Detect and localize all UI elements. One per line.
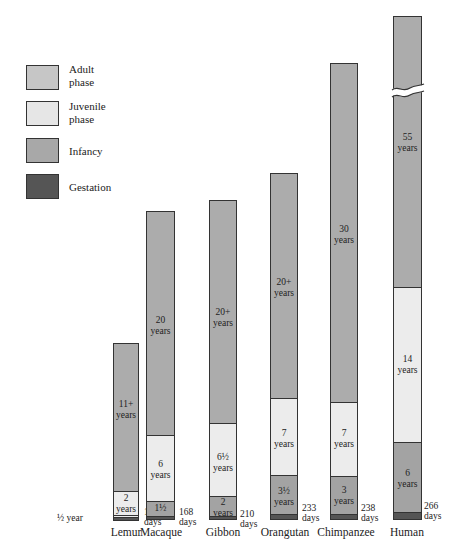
segment-label: 14years xyxy=(394,354,421,376)
segment-label: 3years xyxy=(331,485,357,507)
segment-juvenile: 7years xyxy=(271,398,297,475)
segment-adult: 30years xyxy=(331,64,357,402)
segment-gestation xyxy=(271,514,297,520)
segment-label: 1½ xyxy=(147,503,174,514)
segment-label: 20years xyxy=(147,315,174,337)
orangutan-gestation-label: 233days xyxy=(302,503,319,523)
segment-label: 2years xyxy=(114,493,138,515)
legend-swatch-gestation xyxy=(26,174,59,199)
segment-infancy: 2years xyxy=(210,496,236,516)
segment-label: 7years xyxy=(331,428,357,450)
species-label-chimpanzee: Chimpanzee xyxy=(314,526,378,538)
macaque-gestation-label: 168days xyxy=(179,507,196,527)
segment-label: 6years xyxy=(147,459,174,481)
legend-label-juvenile-line1: Juvenile xyxy=(69,100,106,112)
segment-gestation xyxy=(210,516,236,520)
species-label-gibbon: Gibbon xyxy=(198,526,248,538)
species-label-orangutan: Orangutan xyxy=(254,526,316,538)
legend-swatch-infancy xyxy=(26,138,59,163)
segment-infancy: 3years xyxy=(331,476,357,514)
segment-label: 11+years xyxy=(114,399,138,421)
segment-juvenile: 7years xyxy=(331,402,357,476)
human-gestation-label: 266days xyxy=(424,501,441,521)
segment-label: 20+years xyxy=(210,307,236,329)
segment-adult: 20years xyxy=(147,212,174,435)
segment-infancy: 1½ xyxy=(147,501,174,516)
legend-label-juvenile-line2: phase xyxy=(69,113,94,125)
species-label-macaque: Macaque xyxy=(134,526,188,538)
segment-label: 7years xyxy=(271,428,297,450)
segment-gestation xyxy=(147,516,174,520)
segment-label: 20+years xyxy=(271,277,297,299)
segment-label: 30years xyxy=(331,224,357,246)
axis-break-icon xyxy=(388,80,428,100)
segment-juvenile: 6½years xyxy=(210,423,236,496)
segment-adult: 11+years xyxy=(114,344,138,491)
segment-juvenile: 14years xyxy=(394,287,421,442)
legend-swatch-adult xyxy=(26,65,59,90)
segment-label: 3½years xyxy=(271,486,297,508)
legend-label-infancy: Infancy xyxy=(69,145,103,158)
segment-adult: 55years xyxy=(394,17,421,287)
bar-macaque: 20years 6years 1½ xyxy=(146,211,175,520)
segment-label: 6years xyxy=(394,468,421,490)
chimpanzee-gestation-label: 238days xyxy=(361,503,378,523)
lemur-infancy-label: ½ year xyxy=(57,513,83,523)
bar-chimpanzee: 30years 7years 3years xyxy=(330,63,358,520)
legend-label-adult-line1: Adult xyxy=(69,63,94,75)
segment-adult: 20+years xyxy=(271,174,297,398)
legend-label-adult-line2: phase xyxy=(69,76,94,88)
segment-infancy: 3½years xyxy=(271,475,297,514)
segment-juvenile: 2years xyxy=(114,491,138,515)
species-label-human: Human xyxy=(380,526,434,538)
segment-gestation xyxy=(331,514,357,520)
legend-label-juvenile: Juvenilephase xyxy=(69,100,106,126)
bar-orangutan: 20+years 7years 3½years xyxy=(270,173,298,520)
segment-infancy: 6years xyxy=(394,442,421,512)
segment-gestation xyxy=(394,512,421,520)
legend-label-gestation: Gestation xyxy=(69,181,111,194)
legend-label-adult: Adultphase xyxy=(69,63,94,89)
segment-gestation xyxy=(114,517,138,521)
segment-label: 55years xyxy=(394,132,421,154)
segment-label: 6½years xyxy=(210,452,236,474)
segment-juvenile: 6years xyxy=(147,435,174,501)
bar-gibbon: 20+years 6½years 2years xyxy=(209,200,237,520)
bar-lemur: 11+years 2years xyxy=(113,343,139,521)
legend-swatch-juvenile xyxy=(26,101,59,126)
segment-adult: 20+years xyxy=(210,201,236,423)
